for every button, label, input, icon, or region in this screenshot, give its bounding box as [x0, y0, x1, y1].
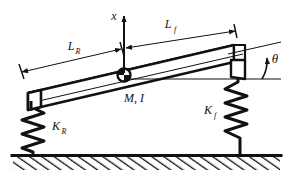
- label-lr: L: [67, 39, 75, 53]
- label-kf-subscript: f: [214, 111, 218, 120]
- label-kr-subscript: R: [61, 127, 67, 136]
- front-length-dimension: [126, 24, 237, 48]
- lf-dimension-line: [126, 31, 235, 48]
- front-spring-coil: [225, 76, 247, 155]
- label-x: x: [110, 9, 117, 23]
- label-lf-group: L f: [164, 17, 178, 34]
- theta-arc: [262, 58, 267, 79]
- label-kf: K: [203, 103, 213, 117]
- front-spring: [225, 76, 247, 155]
- mechanical-schematic-diagram: x L f L R θ M, I K R K f: [0, 0, 289, 186]
- label-lr-group: L R: [67, 39, 81, 56]
- label-mass-inertia: M, I: [123, 91, 145, 105]
- label-lf-subscript: f: [174, 25, 178, 34]
- diagram-canvas: x L f L R θ M, I K R K f: [0, 0, 289, 186]
- ground-hatch-band: [13, 156, 280, 170]
- label-kf-group: K f: [203, 103, 218, 120]
- ground-group: [12, 156, 281, 171]
- label-lr-subscript: R: [75, 47, 81, 56]
- beam-front-foot: [231, 60, 245, 79]
- label-theta: θ: [272, 51, 279, 66]
- label-kr-group: K R: [51, 119, 67, 136]
- label-kr: K: [51, 119, 61, 133]
- label-lf: L: [164, 17, 172, 31]
